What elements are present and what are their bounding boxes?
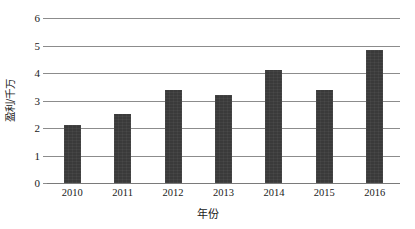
bar xyxy=(316,90,333,184)
bar xyxy=(215,95,232,183)
x-axis-tick-label: 2012 xyxy=(150,188,196,199)
gridline xyxy=(47,18,400,19)
gridline xyxy=(47,46,400,47)
x-axis-tick-label: 2014 xyxy=(251,188,297,199)
x-axis-tick-label: 2011 xyxy=(100,188,146,199)
y-axis-tick-label: 3 xyxy=(20,95,40,106)
x-axis-tick-label: 2010 xyxy=(49,188,95,199)
bar-chart-figure: 盈利/千万 0123456 20102011201220132014201520… xyxy=(0,0,415,229)
y-axis-tick-label: 1 xyxy=(20,150,40,161)
x-axis-title: 年份 xyxy=(0,205,415,221)
y-axis-tick-label: 4 xyxy=(20,68,40,79)
y-axis-title: 盈利/千万 xyxy=(2,56,17,146)
x-axis-tick-label: 2015 xyxy=(301,188,347,199)
bar xyxy=(265,70,282,183)
x-axis-tick-label: 2016 xyxy=(352,188,398,199)
gridline xyxy=(47,73,400,74)
bar xyxy=(366,50,383,183)
y-axis-tick-label: 2 xyxy=(20,123,40,134)
bar xyxy=(165,90,182,184)
y-axis-tick-label: 5 xyxy=(20,40,40,51)
y-axis-tick-label: 0 xyxy=(20,178,40,189)
bar xyxy=(64,125,81,183)
plot-area xyxy=(47,18,400,183)
y-axis-tick-label: 6 xyxy=(20,13,40,24)
x-axis-tick-label: 2013 xyxy=(201,188,247,199)
bar xyxy=(114,114,131,183)
gridline xyxy=(47,183,400,184)
